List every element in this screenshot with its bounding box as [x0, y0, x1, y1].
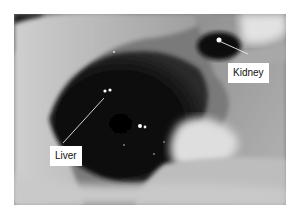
anatomical-photo: Kidney Liver: [14, 14, 286, 205]
kidney-label: Kidney: [228, 63, 269, 83]
photo-render: [14, 14, 286, 205]
liver-label: Liver: [50, 146, 82, 166]
